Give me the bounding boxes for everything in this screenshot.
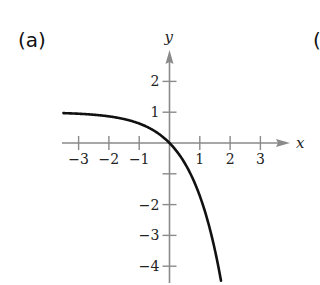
y-axis-label: y xyxy=(164,28,174,46)
chart: xy −3−2−112321−2−3−4 xyxy=(0,0,320,285)
x-tick-label: −2 xyxy=(99,151,120,167)
x-tick-label: −1 xyxy=(129,151,150,167)
y-axis-arrow-icon xyxy=(166,50,174,64)
x-tick-label: 2 xyxy=(226,151,235,167)
x-tick-label: 3 xyxy=(256,151,265,167)
x-tick-label: −3 xyxy=(68,151,89,167)
x-tick-label: 1 xyxy=(195,151,204,167)
y-tick-label: −2 xyxy=(139,197,160,213)
x-axis-label: x xyxy=(296,134,305,152)
y-tick-label: 2 xyxy=(151,73,160,89)
y-tick-label: −3 xyxy=(139,227,160,243)
x-axis-arrow-icon xyxy=(276,139,290,147)
y-tick-label: −4 xyxy=(139,258,160,274)
y-tick-label: 1 xyxy=(151,104,160,120)
